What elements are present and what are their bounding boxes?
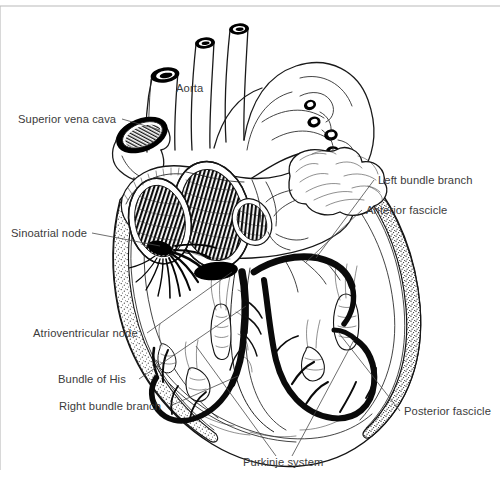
label-anterior-fascicle: Anterior fascicle <box>366 204 447 216</box>
label-posterior-fascicle: Posterior fascicle <box>404 405 491 417</box>
label-aorta: Aorta <box>176 82 204 94</box>
label-atrioventricular-node: Atrioventricular node <box>33 327 138 339</box>
bundle-of-his <box>242 272 245 332</box>
label-right-bundle-branch: Right bundle branch <box>59 400 161 412</box>
label-left-bundle-branch: Left bundle branch <box>378 174 472 186</box>
label-sinoatrial-node: Sinoatrial node <box>11 227 87 239</box>
label-purkinje-system: Purkinje system <box>243 456 323 468</box>
left-subclavian-artery <box>225 23 249 142</box>
cardiac-conduction-diagram: Aorta Superior vena cava Sinoatrial node… <box>0 0 500 490</box>
label-bundle-of-his: Bundle of His <box>58 373 126 385</box>
label-superior-vena-cava: Superior vena cava <box>18 113 117 125</box>
